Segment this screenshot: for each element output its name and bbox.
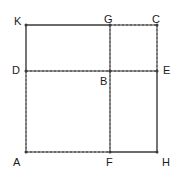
vertex-label-e: E — [163, 65, 170, 76]
vertex-dot-a — [25, 151, 28, 154]
vertex-label-a: A — [13, 157, 20, 168]
geometry-figure: KGCDBEAFH — [0, 0, 182, 178]
vertex-dot-k — [25, 24, 28, 27]
figure-canvas — [0, 0, 182, 178]
vertex-dot-b — [109, 70, 112, 73]
vertex-label-c: C — [152, 14, 160, 25]
vertex-label-g: G — [104, 14, 113, 25]
vertex-label-f: F — [106, 157, 113, 168]
segments-group — [26, 25, 157, 152]
vertex-label-b: B — [100, 76, 107, 87]
vertex-dot-d — [25, 70, 28, 73]
vertex-dot-e — [156, 70, 159, 73]
vertex-dot-f — [109, 151, 112, 154]
vertex-dot-h — [156, 151, 159, 154]
vertex-label-h: H — [162, 157, 170, 168]
vertex-label-d: D — [12, 65, 20, 76]
vertex-label-k: K — [14, 16, 21, 27]
vertices-group — [25, 24, 159, 154]
